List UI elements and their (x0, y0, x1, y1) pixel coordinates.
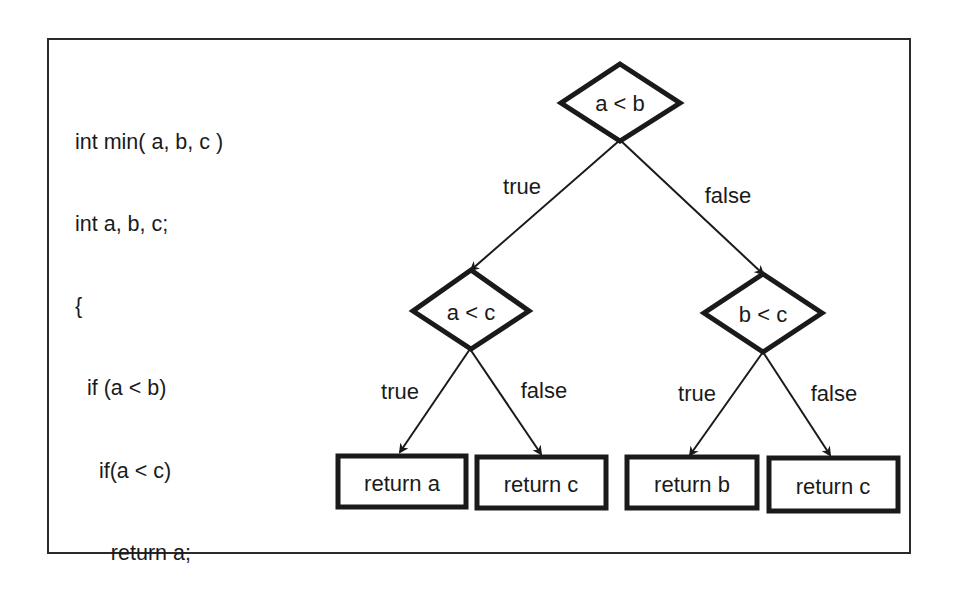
leaf-label: return a (364, 471, 441, 496)
leaf-return-b: return b (627, 457, 757, 508)
decision-root-label: a < b (595, 91, 645, 116)
edge-label-right-true: true (678, 381, 716, 406)
leaf-label: return c (796, 474, 871, 499)
leaf-label: return b (654, 472, 730, 497)
decision-left-label: a < c (447, 300, 495, 325)
edge-root-true (471, 140, 620, 270)
decision-tree: a < b a < c b < c true false true false … (0, 0, 956, 590)
decision-root: a < b (561, 64, 680, 141)
leaf-return-a: return a (338, 456, 466, 507)
decision-right-label: b < c (739, 302, 787, 327)
edge-label-left-true: true (381, 379, 419, 404)
edge-label-right-false: false (811, 381, 857, 406)
leaf-label: return c (504, 472, 579, 497)
edge-label-left-false: false (521, 378, 567, 403)
decision-right: b < c (704, 274, 822, 352)
edge-label-root-false: false (705, 183, 751, 208)
leaf-return-c-right: return c (769, 458, 898, 511)
decision-left: a < c (413, 270, 529, 349)
leaf-return-c-left: return c (477, 457, 606, 508)
edge-label-root-true: true (503, 174, 541, 199)
